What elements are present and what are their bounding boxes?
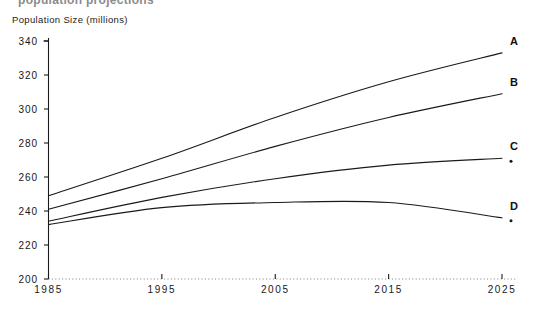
y-tick-label: 280: [4, 138, 38, 149]
series-end-marker-C: [510, 160, 513, 163]
series-line-D: [49, 201, 503, 224]
y-tick-label: 320: [4, 70, 38, 81]
series-line-C: [49, 158, 503, 221]
y-tick-label: 220: [4, 240, 38, 251]
series-label-B: B: [510, 76, 518, 88]
x-tick-label: 1985: [34, 284, 63, 295]
y-tick-label: 300: [4, 104, 38, 115]
x-tick-label: 2015: [374, 284, 403, 295]
x-tick-label: 1995: [148, 284, 177, 295]
x-tick-label: 2025: [488, 284, 517, 295]
y-tick-label: 340: [4, 36, 38, 47]
x-tick-label: 2005: [261, 284, 290, 295]
series-line-A: [49, 53, 503, 196]
series-line-B: [49, 94, 503, 210]
series-label-A: A: [510, 35, 518, 47]
series-end-marker-D: [510, 219, 513, 222]
series-label-D: D: [510, 200, 518, 212]
plot-area: [0, 0, 539, 309]
y-tick-label: 200: [4, 274, 38, 285]
chart-figure: population projections Population Size (…: [0, 0, 539, 309]
series-label-C: C: [510, 140, 518, 152]
y-tick-label: 260: [4, 172, 38, 183]
y-tick-label: 240: [4, 206, 38, 217]
